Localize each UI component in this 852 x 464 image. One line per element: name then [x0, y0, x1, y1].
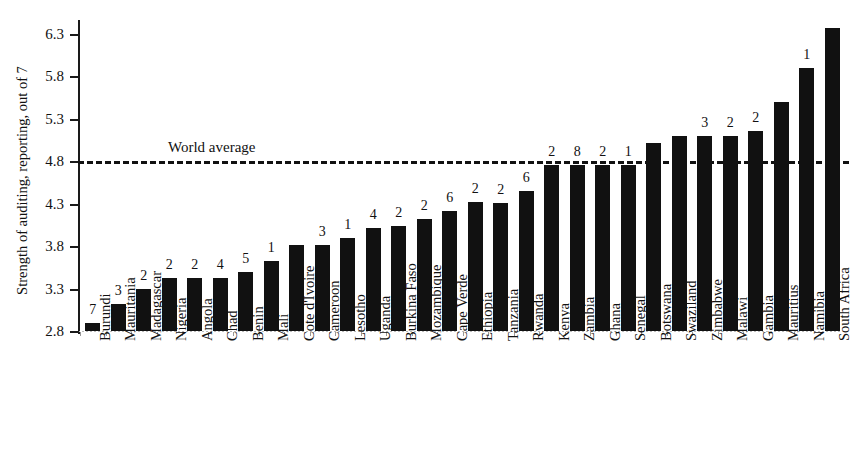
- x-axis-label: Zimbabwe: [710, 279, 725, 341]
- y-tick-mark: [70, 289, 79, 291]
- x-axis-label: Madagascar: [149, 271, 164, 341]
- x-axis-label: Nigeria: [174, 298, 189, 341]
- y-tick-mark: [70, 34, 79, 36]
- x-axis-label: Cote d'Ivoire: [302, 266, 317, 342]
- x-axis-label: Mozambique: [429, 264, 444, 341]
- y-axis-line: [78, 20, 80, 334]
- x-axis-label: Gambia: [761, 295, 776, 341]
- bar-value-label: 2: [465, 182, 485, 196]
- y-tick-label: 4.8: [22, 154, 64, 169]
- x-axis-label: Mauritania: [123, 277, 138, 341]
- x-axis-label: Chad: [225, 310, 240, 341]
- bar-value-label: 2: [491, 183, 511, 197]
- bar-value-label: 2: [720, 116, 740, 130]
- bar-value-label: 2: [414, 199, 434, 213]
- x-axis-label: Mauritius: [786, 285, 801, 341]
- x-axis-label: Mali: [276, 314, 291, 341]
- x-axis-label: South Africa: [837, 267, 852, 341]
- world-average-label: World average: [168, 139, 256, 156]
- y-tick-mark: [70, 76, 79, 78]
- y-tick-mark: [70, 246, 79, 248]
- bar-value-label: 2: [746, 111, 766, 125]
- y-tick-label: 3.3: [22, 282, 64, 297]
- x-axis-label: Senegal: [633, 295, 648, 341]
- y-tick-label: 3.8: [22, 239, 64, 254]
- bar-value-label: 4: [363, 208, 383, 222]
- y-tick-label: 2.8: [22, 324, 64, 339]
- y-tick-label: 5.3: [22, 112, 64, 127]
- x-axis-label: Angola: [200, 298, 215, 341]
- x-axis-label: Uganda: [378, 296, 393, 341]
- bar-value-label: 1: [338, 218, 358, 232]
- bar-value-label: 1: [797, 48, 817, 62]
- bar-value-label: 5: [236, 252, 256, 266]
- x-axis-label: Tanzania: [506, 289, 521, 341]
- bar-value-label: 2: [593, 145, 613, 159]
- bar-value-label: 1: [618, 145, 638, 159]
- bar-value-label: 4: [210, 258, 230, 272]
- bar-value-label: 1: [261, 241, 281, 255]
- x-axis-label: Swaziland: [684, 281, 699, 341]
- bar-value-label: 3: [695, 116, 715, 130]
- x-axis-label: Lesotho: [353, 294, 368, 341]
- x-axis-label: Cape Verde: [455, 274, 470, 341]
- y-tick-mark: [70, 331, 79, 333]
- x-axis-label: Burundi: [98, 293, 113, 341]
- x-axis-label: Zambia: [582, 297, 597, 341]
- bar-value-label: 2: [185, 258, 205, 272]
- x-tick-mark: [80, 332, 81, 336]
- y-tick-mark: [70, 119, 79, 121]
- y-tick-label: 4.3: [22, 197, 64, 212]
- x-axis-label: Namibia: [812, 291, 827, 341]
- x-axis-label: Burkina Faso: [404, 263, 419, 341]
- bar-value-label: 2: [542, 145, 562, 159]
- x-axis-label: Ghana: [608, 303, 623, 341]
- x-axis-label: Malawi: [735, 297, 750, 341]
- x-axis-label: Benin: [251, 306, 266, 341]
- y-tick-mark: [70, 204, 79, 206]
- bar-value-label: 6: [440, 191, 460, 205]
- x-axis-label: Rwanda: [531, 293, 546, 341]
- x-axis-label: Kenya: [557, 303, 572, 341]
- x-axis-label: Botswana: [659, 284, 674, 341]
- y-tick-label: 6.3: [22, 27, 64, 42]
- bar-value-label: 6: [516, 171, 536, 185]
- bar-value-label: 8: [567, 145, 587, 159]
- bar-value-label: 2: [389, 206, 409, 220]
- bar-value-label: 3: [312, 225, 332, 239]
- y-tick-label: 5.8: [22, 69, 64, 84]
- y-axis-title: Strength of auditing, reporting, out of …: [14, 11, 31, 351]
- x-axis-label: Cameroon: [327, 281, 342, 341]
- x-axis-label: Ethiopia: [480, 292, 495, 341]
